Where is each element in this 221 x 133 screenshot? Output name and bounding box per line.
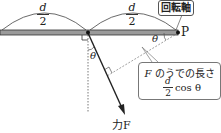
lever-arm-fraction: d 2	[163, 77, 173, 98]
force-label: 力F	[112, 116, 131, 132]
right-length-label: d 2	[126, 2, 138, 27]
pivot-axis-callout: 回転軸	[158, 0, 194, 16]
left-length-label: d 2	[37, 2, 49, 27]
point-p-label: P	[181, 25, 189, 39]
right-angle-mark-top	[82, 35, 88, 40]
moment-arm-diagram: d 2 d 2 回転軸 P θ θ F のうでの長さ d 2 cos θ 力F	[0, 0, 221, 133]
force-arrowhead	[118, 104, 125, 115]
point-p	[176, 31, 180, 35]
angle-label-p: θ	[152, 33, 158, 44]
center-point	[86, 31, 90, 35]
force-line	[88, 33, 122, 108]
arm-callout-pointer	[142, 47, 158, 62]
angle-label-pivot: θ	[90, 50, 96, 61]
lever-arm-title: F のうでの長さ	[139, 65, 220, 80]
lever-arm-cos: cos θ	[175, 82, 201, 93]
lever-arm-callout: F のうでの長さ d 2 cos θ	[138, 62, 221, 100]
